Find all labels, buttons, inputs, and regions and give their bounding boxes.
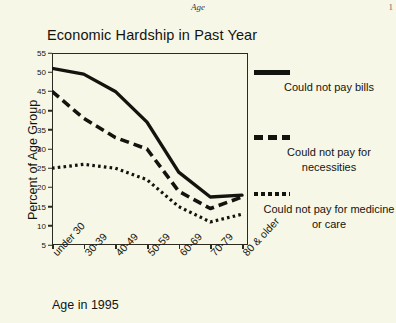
y-tick-label: 45 — [37, 87, 46, 96]
series-line-2 — [52, 91, 242, 208]
x-axis-labels: under 3030-3940-4950-5960-6970-7980 & ol… — [0, 245, 396, 305]
legend-swatch-dashed — [254, 135, 290, 140]
chart-title: Economic Hardship in Past Year — [47, 27, 257, 43]
y-tick-label: 25 — [37, 164, 46, 173]
y-tick-label: 10 — [37, 221, 46, 230]
legend-label: Could not pay bills — [262, 80, 396, 95]
legend-label: Could not pay for necessities — [262, 145, 396, 174]
y-tick-label: 30 — [37, 145, 46, 154]
legend-swatch-dotted — [254, 192, 290, 196]
legend-swatch-solid — [254, 70, 290, 75]
series-line-1 — [52, 68, 242, 197]
series-line-3 — [52, 164, 242, 222]
y-tick-label: 15 — [37, 202, 46, 211]
page-number: 1 — [389, 2, 394, 12]
y-axis: Percent of Age Group 5550454035302520151… — [0, 53, 52, 245]
y-tick-label: 50 — [37, 68, 46, 77]
x-axis-title: Age in 1995 — [52, 298, 119, 312]
y-tick-label: 20 — [37, 183, 46, 192]
plot-area — [52, 53, 248, 245]
legend-label: Could not pay for medicine or care — [262, 202, 396, 231]
y-tick-label: 40 — [37, 106, 46, 115]
y-tick-label: 35 — [37, 125, 46, 134]
running-head: Age — [0, 2, 396, 12]
y-tick-label: 55 — [37, 49, 46, 58]
